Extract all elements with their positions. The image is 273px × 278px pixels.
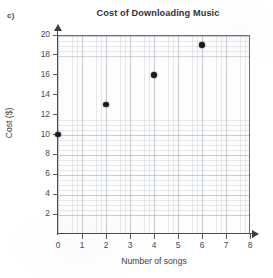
x-tick-label: 7 <box>216 240 236 250</box>
y-tick <box>53 35 58 36</box>
x-tick <box>250 234 251 239</box>
x-tick <box>226 234 227 239</box>
y-tick <box>53 154 58 155</box>
x-tick-label: 5 <box>168 240 188 250</box>
y-tick <box>53 94 58 95</box>
y-axis-title: Cost ($) <box>4 93 14 153</box>
x-tick-label: 1 <box>72 240 92 250</box>
data-point <box>151 72 156 77</box>
y-axis-arrow-icon <box>54 24 62 31</box>
y-tick-label: 12 <box>41 109 50 119</box>
y-tick <box>53 114 58 115</box>
y-tick <box>53 174 58 175</box>
y-tick-label: 20 <box>41 29 50 39</box>
y-tick-label: 8 <box>45 148 50 158</box>
y-tick-label: 10 <box>41 129 50 139</box>
data-point <box>55 132 60 137</box>
y-tick-label: 6 <box>45 168 50 178</box>
x-tick <box>154 234 155 239</box>
y-tick <box>53 214 58 215</box>
x-tick-label: 4 <box>144 240 164 250</box>
part-label: c) <box>7 11 15 20</box>
y-tick <box>53 54 58 55</box>
x-axis-title: Number of songs <box>58 256 250 266</box>
chart-title: Cost of Downloading Music <box>58 8 258 18</box>
data-point <box>199 42 204 47</box>
x-tick-label: 2 <box>96 240 116 250</box>
y-tick <box>53 194 58 195</box>
x-tick <box>82 234 83 239</box>
data-point <box>103 102 108 107</box>
x-tick-label: 6 <box>192 240 212 250</box>
x-tick <box>178 234 179 239</box>
y-tick-label: 14 <box>41 89 50 99</box>
x-tick <box>202 234 203 239</box>
y-tick-label: 4 <box>45 188 50 198</box>
plot-area <box>58 35 250 234</box>
x-tick-label: 3 <box>120 240 140 250</box>
y-tick <box>53 74 58 75</box>
x-tick <box>106 234 107 239</box>
y-tick-label: 2 <box>45 208 50 218</box>
x-axis-arrow-icon <box>252 230 259 238</box>
figure-root: c) Cost of Downloading Music 24681012141… <box>0 0 273 278</box>
y-tick-label: 18 <box>41 49 50 59</box>
x-tick-label: 0 <box>48 240 68 250</box>
x-tick-label: 8 <box>240 240 260 250</box>
y-tick-label: 16 <box>41 69 50 79</box>
x-tick <box>130 234 131 239</box>
